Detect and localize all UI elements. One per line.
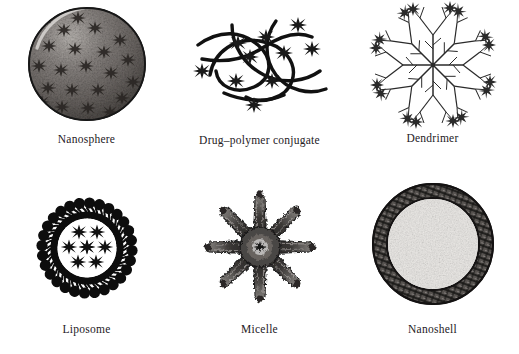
panel-dendrimer: Dendrimer bbox=[346, 0, 519, 177]
panel-nanosphere: Nanosphere bbox=[0, 0, 173, 177]
panel-caption-nanoshell: Nanoshell bbox=[408, 323, 457, 335]
panel-nanoshell: Nanoshell bbox=[346, 177, 519, 354]
panel-drug-polymer-conjugate: Drug–polymer conjugate bbox=[173, 0, 346, 177]
panel-caption-nanosphere: Nanosphere bbox=[58, 133, 115, 145]
panel-caption-drug-polymer-conjugate: Drug–polymer conjugate bbox=[199, 134, 320, 146]
micelle-illustration bbox=[173, 177, 346, 327]
panel-liposome: Liposome bbox=[0, 177, 173, 354]
nanoshell-illustration bbox=[346, 177, 519, 323]
liposome-illustration bbox=[0, 177, 173, 325]
panel-caption-dendrimer: Dendrimer bbox=[406, 132, 458, 144]
nanosphere-illustration bbox=[0, 0, 173, 132]
panel-micelle: Micelle bbox=[173, 177, 346, 354]
drug-polymer-conjugate-illustration bbox=[173, 0, 346, 134]
dendrimer-illustration bbox=[346, 0, 519, 132]
nanoparticle-figure: Nanosphere bbox=[0, 0, 519, 354]
